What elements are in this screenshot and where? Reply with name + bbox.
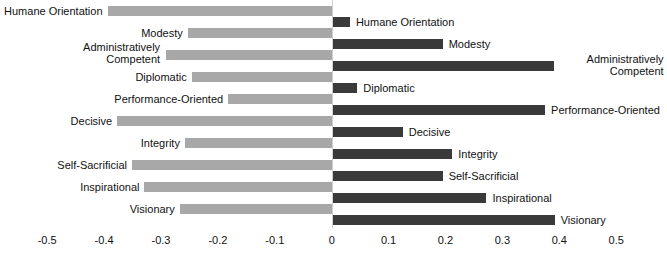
positive-bar[interactable] — [333, 171, 442, 181]
x-tick-label: 0.1 — [366, 234, 412, 246]
plot-area: Humane OrientationHumane OrientationMode… — [0, 0, 667, 228]
chart-row: DiplomaticDiplomatic — [0, 72, 667, 94]
positive-bar[interactable] — [333, 215, 555, 225]
x-tick-label: 0.5 — [593, 234, 639, 246]
chart-row: DecisiveDecisive — [0, 116, 667, 138]
negative-bar[interactable] — [144, 182, 331, 192]
x-tick-label: -0.2 — [195, 234, 241, 246]
positive-row-label: Diplomatic — [363, 81, 414, 95]
negative-row-label: Visionary — [130, 202, 175, 216]
chart-row: InspirationalInspirational — [0, 182, 667, 204]
x-axis: -0.5-0.4-0.3-0.2-0.100.10.20.30.40.5 — [0, 228, 667, 257]
negative-bar[interactable] — [188, 28, 332, 38]
x-tick-label: -0.4 — [81, 234, 127, 246]
negative-bar[interactable] — [192, 72, 332, 82]
chart-row: Humane OrientationHumane Orientation — [0, 6, 667, 28]
x-tick-label: -0.5 — [24, 234, 70, 246]
positive-bar[interactable] — [333, 105, 545, 115]
chart-container: Humane OrientationHumane OrientationMode… — [0, 0, 667, 257]
x-tick-label: 0 — [309, 234, 355, 246]
positive-row-label: Decisive — [409, 125, 451, 139]
positive-row-label: Visionary — [561, 213, 606, 227]
negative-row-label: Humane Orientation — [4, 4, 102, 18]
x-tick-label: -0.3 — [138, 234, 184, 246]
negative-bar[interactable] — [185, 138, 332, 148]
positive-bar[interactable] — [333, 149, 452, 159]
negative-bar[interactable] — [132, 160, 332, 170]
positive-bar[interactable] — [333, 127, 403, 137]
positive-bar[interactable] — [333, 61, 553, 71]
negative-row-label: Integrity — [141, 136, 180, 150]
negative-row-label: Diplomatic — [135, 70, 186, 84]
negative-row-label: AdministrativelyCompetent — [40, 41, 160, 55]
chart-row: Performance-OrientedPerformance-Oriented — [0, 94, 667, 116]
positive-bar[interactable] — [333, 193, 486, 203]
positive-row-label: Inspirational — [492, 191, 551, 205]
positive-bar[interactable] — [333, 39, 442, 49]
negative-row-label: Decisive — [71, 114, 113, 128]
negative-row-label: Modesty — [141, 26, 183, 40]
positive-row-label: Integrity — [458, 147, 497, 161]
chart-row: Self-SacrificialSelf-Sacrificial — [0, 160, 667, 182]
chart-row: VisionaryVisionary — [0, 204, 667, 226]
negative-row-label: Inspirational — [80, 180, 139, 194]
x-tick-label: 0.2 — [423, 234, 469, 246]
x-tick-label: 0.4 — [536, 234, 582, 246]
negative-bar[interactable] — [180, 204, 332, 214]
chart-row: IntegrityIntegrity — [0, 138, 667, 160]
positive-row-label: Humane Orientation — [356, 15, 454, 29]
positive-bar[interactable] — [333, 17, 350, 27]
positive-bar[interactable] — [333, 83, 357, 93]
positive-row-label: AdministrativelyCompetent — [560, 53, 664, 67]
positive-row-label: Performance-Oriented — [551, 103, 660, 117]
axis-line — [0, 228, 667, 229]
negative-bar[interactable] — [166, 50, 332, 60]
negative-row-label: Performance-Oriented — [114, 92, 223, 106]
positive-row-label: Modesty — [449, 37, 491, 51]
negative-bar[interactable] — [117, 116, 332, 126]
chart-row: AdministrativelyCompetentAdministrativel… — [0, 50, 667, 72]
negative-bar[interactable] — [228, 94, 332, 104]
positive-row-label: Self-Sacrificial — [449, 169, 519, 183]
negative-row-label: Self-Sacrificial — [57, 158, 127, 172]
x-tick-label: -0.1 — [252, 234, 298, 246]
x-tick-label: 0.3 — [479, 234, 525, 246]
negative-bar[interactable] — [108, 6, 332, 16]
